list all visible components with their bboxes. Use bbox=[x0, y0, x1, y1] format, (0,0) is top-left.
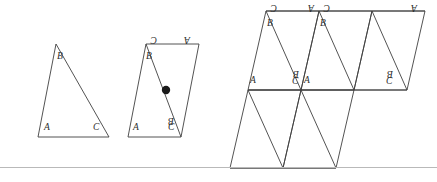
parallelogram-rotated-vertex-label-a: A bbox=[184, 35, 191, 45]
tiling-label-b-2: B bbox=[320, 18, 326, 28]
geometry-figure-stage: A B C A B C C A B bbox=[0, 0, 437, 182]
triangle-vertex-label-a: A bbox=[43, 122, 50, 132]
parallelogram-labels: A B C C A B bbox=[132, 35, 191, 132]
parallelogram-vertex-label-a: A bbox=[132, 122, 139, 132]
page-separator-rule bbox=[0, 167, 437, 168]
tiling-label-c-rot-2: C bbox=[323, 3, 330, 13]
parallelogram-vertex-label-b: B bbox=[146, 51, 152, 61]
tiling-label-a-rot-2: A bbox=[411, 3, 418, 13]
tiling-label-b-rot-2: B bbox=[387, 69, 393, 79]
tiling-label-a-rot-1: A bbox=[308, 3, 315, 13]
tiling-label-b-rot-1: B bbox=[293, 69, 299, 79]
tiling-label-c-rot-1: C bbox=[270, 3, 277, 13]
tiling-label-b-1: B bbox=[267, 18, 273, 28]
rotation-center-point bbox=[162, 86, 170, 94]
geometry-diagram-svg: A B C A B C C A B bbox=[0, 0, 437, 182]
triangle-labels: A B C bbox=[43, 51, 100, 132]
tiling-diagonal-bottom-right bbox=[301, 90, 336, 168]
triangle-vertex-label-c: C bbox=[93, 122, 100, 132]
tiling-label-a-1: A bbox=[249, 75, 256, 85]
parallelogram-rotated-vertex-label-c: C bbox=[150, 35, 157, 45]
figure-tiling bbox=[230, 11, 425, 168]
tiling-label-a-2: A bbox=[303, 75, 310, 85]
tiling-diagonal-bottom-left bbox=[248, 90, 283, 168]
parallelogram-rotated-vertex-label-b: B bbox=[168, 116, 174, 126]
triangle-vertex-label-b: B bbox=[57, 51, 63, 61]
